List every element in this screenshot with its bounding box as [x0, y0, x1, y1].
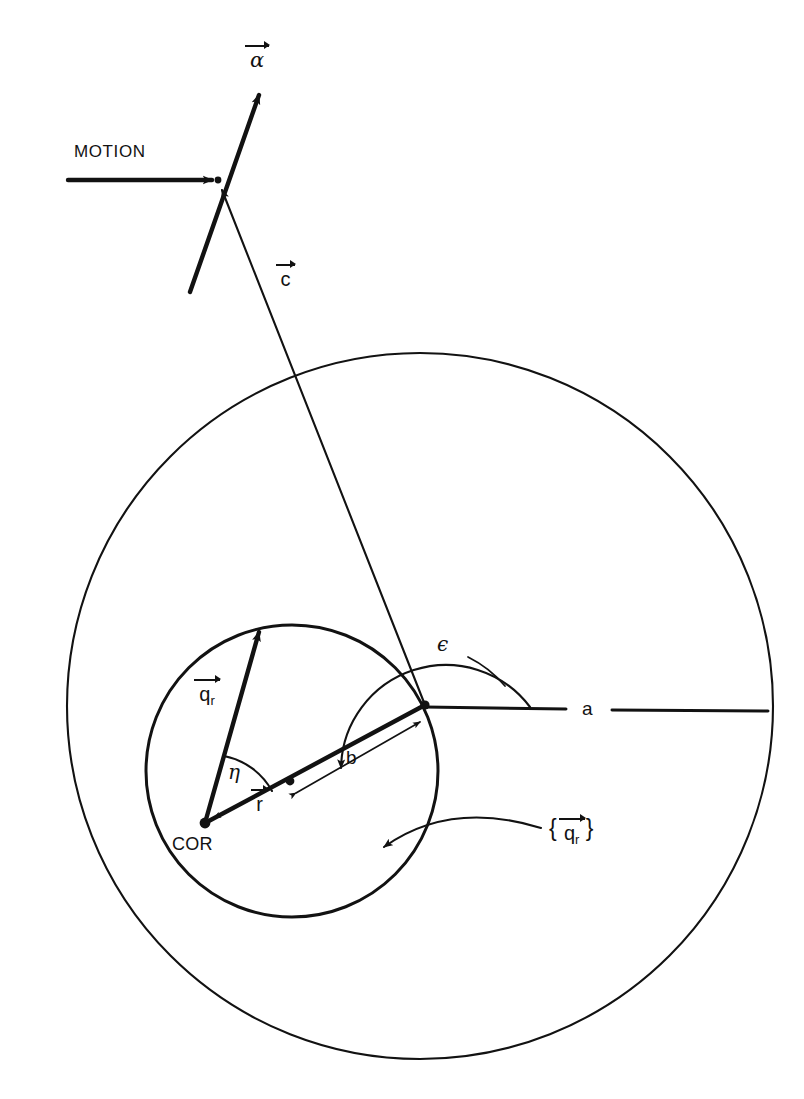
qr-subscript: r	[210, 693, 214, 708]
a-segment-left	[425, 707, 566, 709]
b-double-arrow	[296, 722, 420, 793]
a-length-label: a	[582, 699, 593, 718]
vector-arrow-accent-qr	[194, 674, 220, 683]
diagram-canvas	[0, 0, 804, 1099]
motion-label: MOTION	[74, 143, 146, 160]
c-letter: c	[276, 269, 295, 289]
qr-letter: qr	[194, 684, 220, 707]
mid-point-dot	[286, 777, 295, 786]
intersection-point-dot	[420, 700, 429, 709]
qr-set-letter: qr	[559, 823, 585, 846]
vector-arrow-accent-r	[251, 784, 268, 793]
b-length-label: b	[346, 748, 357, 767]
vector-arrow-accent-alpha	[245, 40, 269, 49]
motion-vertex-dot	[215, 177, 222, 184]
r-letter: r	[251, 794, 268, 814]
epsilon-leader	[468, 657, 505, 686]
qr-set-subscript: r	[575, 832, 579, 847]
vector-arrow-accent-qr-set	[559, 813, 585, 822]
qr-base: q	[199, 683, 210, 705]
alpha-letter: α	[245, 50, 269, 71]
inner-circle-qr-locus	[146, 625, 438, 917]
figure-root: MOTION α c qr r η ϵ b a COR { qr } Kinem…	[0, 0, 804, 1099]
cor-point-label: COR	[172, 835, 213, 853]
qr-vector-label: qr	[194, 674, 220, 707]
epsilon-angle-label: ϵ	[437, 634, 448, 654]
cor-point-dot	[200, 818, 211, 829]
qr-set-label: { qr }	[549, 812, 593, 845]
eta-angle-label: η	[228, 762, 240, 782]
alpha-vector-label: α	[245, 40, 269, 71]
caption-ghost: Kinematic geometry of motion about a cen…	[0, 1084, 804, 1099]
qr-set-vector: qr	[559, 813, 585, 846]
qr-set-leader-arrow	[384, 818, 541, 847]
c-vector-label: c	[276, 259, 295, 289]
a-segment-right	[612, 710, 768, 711]
set-open-brace: {	[549, 817, 557, 840]
vector-arrow-accent-c	[276, 259, 295, 268]
set-close-brace: }	[586, 817, 594, 840]
qr-set-base: q	[564, 822, 575, 844]
r-vector-label: r	[251, 784, 268, 814]
